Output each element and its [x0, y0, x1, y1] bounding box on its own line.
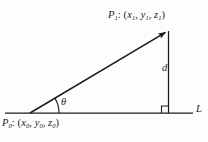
p0-paren-close: ) [56, 117, 60, 128]
p1-comma-2: , [149, 9, 152, 20]
right-angle-marker [162, 106, 169, 113]
p0-coord-y-subscript: 0 [39, 122, 42, 129]
label-point-p0: P0: (x0, y0, z0) [2, 118, 59, 129]
label-point-p1: P1: (x1, y1, z1) [108, 10, 165, 21]
label-angle-theta: θ [61, 97, 66, 108]
p1-subscript: 1 [115, 14, 118, 21]
p1-name: P [108, 9, 115, 20]
p0-separator: : [12, 117, 15, 128]
p0-comma-1: , [29, 117, 32, 128]
p0-coord-x-subscript: 0 [26, 122, 29, 129]
vector-p0-to-p1 [30, 32, 166, 113]
p0-coord-z-subscript: 0 [52, 122, 55, 129]
p1-comma-1: , [135, 9, 138, 20]
geometry-figure: P1: (x1, y1, z1) P0: (x0, y0, z0) d θ L [0, 0, 208, 142]
p1-coord-y-subscript: 1 [145, 14, 148, 21]
label-line-l: L [196, 104, 202, 115]
p1-paren-close: ) [162, 9, 166, 20]
p1-coord-z-subscript: 1 [158, 14, 161, 21]
p1-separator: : [118, 9, 121, 20]
p0-subscript: 0 [9, 122, 12, 129]
p0-name: P [2, 117, 9, 128]
label-distance-d: d [162, 63, 167, 74]
p0-comma-2: , [43, 117, 46, 128]
angle-arc-theta [55, 98, 59, 113]
p1-coord-x-subscript: 1 [132, 14, 135, 21]
